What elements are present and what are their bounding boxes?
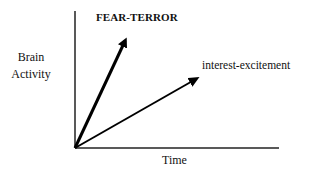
fear-terror-label: FEAR-TERROR bbox=[96, 12, 178, 23]
y-axis-label-line1: Brain bbox=[8, 49, 54, 66]
diagram-canvas bbox=[0, 0, 310, 177]
y-axis-label-line2: Activity bbox=[8, 66, 54, 83]
y-axis-label: Brain Activity bbox=[8, 49, 54, 83]
emotion-brain-activity-diagram: Brain Activity Time FEAR-TERROR interest… bbox=[0, 0, 310, 177]
fear-terror-arrow bbox=[75, 41, 125, 148]
interest-excitement-arrow bbox=[75, 79, 196, 148]
x-axis-label: Time bbox=[162, 154, 187, 166]
interest-excitement-label: interest-excitement bbox=[202, 60, 290, 72]
